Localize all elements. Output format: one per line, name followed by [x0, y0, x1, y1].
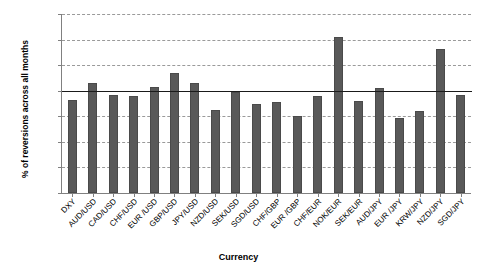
bar-cell — [123, 14, 143, 193]
bar-cell — [287, 14, 307, 193]
bar-cell — [205, 14, 225, 193]
y-axis-title: % of reversions across all months — [20, 14, 30, 204]
bar-cell — [410, 14, 430, 193]
x-axis-labels: DXYAUD/USDCAD/USDCHF/USDEUR /USDGBP/USDJ… — [61, 195, 470, 247]
bar-cell — [144, 14, 164, 193]
bar — [68, 100, 77, 193]
bar-cell — [246, 14, 266, 193]
x-axis-title: Currency — [0, 252, 477, 262]
bar-cell — [328, 14, 348, 193]
bar-cell — [62, 14, 82, 193]
y-axis-tick-mark — [58, 193, 62, 194]
bar — [334, 37, 343, 193]
bar-cell — [451, 14, 471, 193]
bar-cell — [103, 14, 123, 193]
bar-cell — [164, 14, 184, 193]
bar-series — [62, 14, 471, 193]
bar-cell — [389, 14, 409, 193]
bar — [88, 83, 97, 193]
bar-cell — [307, 14, 327, 193]
chart-container: % of reversions across all months 0.0%1.… — [0, 0, 477, 278]
plot-area: 0.0%1.0%2.0%3.0%4.0%5.0%6.0%7.0% — [61, 14, 471, 194]
reference-line-rule — [62, 91, 472, 92]
bar-cell — [430, 14, 450, 193]
bar-cell — [348, 14, 368, 193]
bar-cell — [369, 14, 389, 193]
bar-cell — [185, 14, 205, 193]
bar-cell — [82, 14, 102, 193]
bar-cell — [226, 14, 246, 193]
bar-cell — [267, 14, 287, 193]
